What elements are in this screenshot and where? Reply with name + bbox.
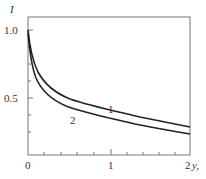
line-chart: [0, 0, 206, 179]
y-tick-label-1: 1.0: [4, 25, 18, 36]
x-ticks: [44, 149, 175, 155]
x-tick-label-0: 0: [25, 160, 31, 171]
x-tick-label-1: 1: [108, 160, 114, 171]
y-axis-label: I: [10, 4, 14, 15]
x-tick-label-2: 2: [185, 160, 191, 171]
y-tick-label-05: 0.5: [4, 93, 18, 104]
curve-label-2: 2: [70, 115, 76, 126]
curve-label-1: 1: [108, 104, 114, 115]
curve-2: [28, 33, 190, 134]
x-axis-label: y,: [192, 160, 199, 171]
plot-frame: [28, 17, 190, 155]
